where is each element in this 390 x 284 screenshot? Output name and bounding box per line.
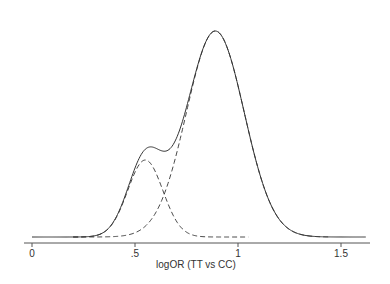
x-tick-label: .5 (131, 248, 140, 259)
component-large-dashed-line (73, 31, 331, 237)
plot-area (32, 31, 366, 237)
x-tick-label: 1.5 (334, 248, 348, 259)
x-tick-label: 1 (235, 248, 241, 259)
x-axis-ticks: 0.511.5 (29, 243, 348, 259)
density-chart: 0.511.5 logOR (TT vs CC) (0, 0, 390, 284)
x-tick-label: 0 (29, 248, 35, 259)
component-small-dashed-line (73, 160, 248, 237)
x-axis-title: logOR (TT vs CC) (156, 259, 236, 270)
